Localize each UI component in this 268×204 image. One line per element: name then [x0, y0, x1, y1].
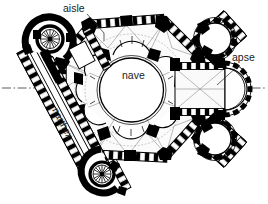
floor-plan-drawing: aisle nave apse narthex [0, 0, 268, 204]
chancel-and-apse [170, 58, 251, 120]
label-aisle: aisle [63, 2, 85, 14]
label-apse: apse [232, 51, 255, 63]
floor-plan-figure: aisle nave apse narthex [0, 0, 268, 204]
label-nave: nave [122, 69, 145, 81]
